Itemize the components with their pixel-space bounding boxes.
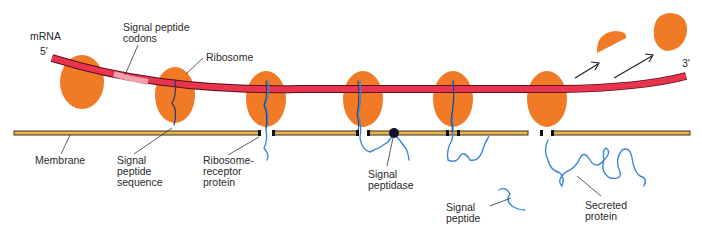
mrna-label: mRNA xyxy=(30,31,61,42)
secretion-diagram: mRNA 5′ 3′ Signal peptide codons Ribosom… xyxy=(0,0,702,232)
membrane-label: Membrane xyxy=(35,155,85,166)
five-prime-label: 5′ xyxy=(40,46,48,57)
ribosome-label: Ribosome xyxy=(206,52,253,63)
diagram-canvas xyxy=(0,0,702,232)
release-arrows xyxy=(575,54,653,78)
three-prime-label: 3′ xyxy=(682,58,690,69)
free-signal-peptide xyxy=(499,189,525,210)
signal-peptide-label: Signal peptide xyxy=(446,202,480,224)
signal-peptidase-dot xyxy=(389,128,399,138)
ribosome-4 xyxy=(343,71,383,127)
signal-peptide-sequence-label: Signal peptide sequence xyxy=(117,155,163,188)
ribosome-6 xyxy=(527,71,567,127)
signal-peptidase-label: Signal peptidase xyxy=(368,169,414,191)
secreted-protein-label: Secreted protein xyxy=(585,200,627,222)
membrane xyxy=(14,130,690,136)
ribosome-receptor-protein-label: Ribosome- receptor protein xyxy=(203,155,254,188)
released-small-subunit xyxy=(597,31,626,53)
released-large-subunit xyxy=(654,13,687,51)
signal-peptide-codons-label: Signal peptide codons xyxy=(123,22,190,44)
